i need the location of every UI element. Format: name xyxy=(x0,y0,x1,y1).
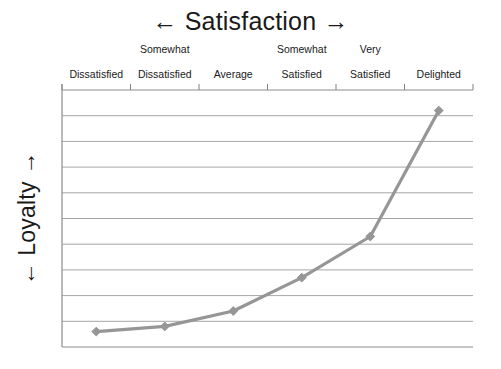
data-point-marker xyxy=(92,327,101,336)
data-point-marker xyxy=(160,322,169,331)
satisfaction-loyalty-chart: ← Satisfaction → Dissatisfied Somewhat D… xyxy=(0,0,501,369)
plot-area xyxy=(0,0,501,369)
loyalty-series-markers xyxy=(92,106,443,336)
x-axis-ticks xyxy=(62,84,473,90)
loyalty-series-line xyxy=(96,111,439,332)
gridlines xyxy=(62,116,473,322)
